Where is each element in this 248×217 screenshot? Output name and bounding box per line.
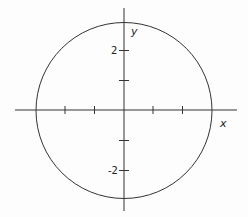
y-tick-label-2: 2: [111, 45, 117, 56]
x-axis-label: x: [219, 117, 227, 130]
y-tick-label-neg2: -2: [108, 165, 118, 176]
circle-graph: 2 -2 y x: [0, 0, 248, 217]
y-axis-label: y: [130, 25, 138, 38]
